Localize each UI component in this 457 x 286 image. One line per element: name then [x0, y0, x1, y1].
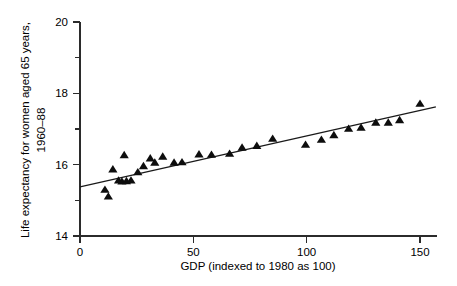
x-tick-label: 50: [187, 246, 200, 258]
data-point: [169, 158, 178, 165]
data-point: [139, 162, 148, 169]
data-point: [395, 116, 404, 123]
data-point: [177, 158, 186, 165]
data-point: [384, 118, 393, 125]
y-axis-title-line-1: Life expectancy for women aged 65 years,: [19, 22, 31, 238]
y-tick-label: 16: [55, 159, 68, 171]
data-point: [268, 134, 277, 141]
data-point: [317, 135, 326, 142]
x-axis-title: GDP (indexed to 1980 as 100): [180, 260, 335, 272]
data-point: [329, 131, 338, 138]
x-axis: 050100150: [77, 236, 437, 258]
data-point: [146, 154, 155, 161]
data-point: [252, 142, 261, 149]
y-tick-label: 14: [55, 230, 68, 242]
data-point: [104, 192, 113, 199]
data-point: [100, 185, 109, 192]
x-tick-label: 150: [410, 246, 429, 258]
data-point: [301, 140, 310, 147]
y-axis-tick-labels: 14161820: [55, 16, 68, 242]
x-tick-label: 0: [77, 246, 83, 258]
data-point: [108, 165, 117, 172]
data-point: [415, 99, 424, 106]
data-point: [120, 151, 129, 158]
y-axis-minor-ticks: [75, 58, 80, 201]
chart-canvas: 14161820 050100150 GDP (indexed to 1980 …: [0, 0, 457, 286]
x-tick-label: 100: [297, 246, 316, 258]
x-axis-major-ticks: [80, 236, 420, 243]
x-axis-tick-labels: 050100150: [77, 246, 430, 258]
data-point: [158, 152, 167, 159]
y-axis: 14161820: [55, 16, 80, 242]
data-point: [237, 143, 246, 150]
data-point-markers: [100, 99, 424, 199]
y-axis-title-line-2: 1960–88: [35, 108, 47, 153]
y-tick-label: 18: [55, 87, 68, 99]
scatter-plot-figure: 14161820 050100150 GDP (indexed to 1980 …: [0, 0, 457, 286]
data-point: [194, 150, 203, 157]
data-point: [207, 150, 216, 157]
y-tick-label: 20: [55, 16, 68, 28]
